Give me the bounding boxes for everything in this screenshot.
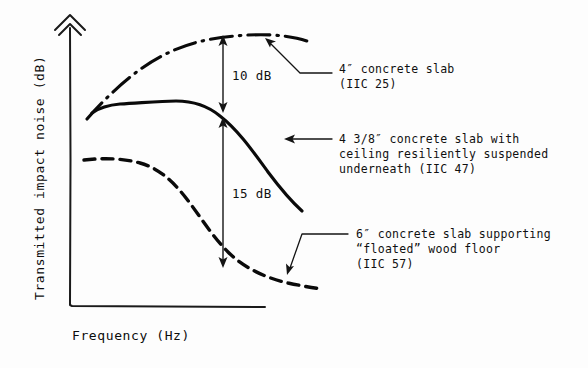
chart-figure: Transmitted impact noise (dB) Frequency …	[0, 0, 588, 368]
callout-slab438-line2: ceiling resiliently suspended	[339, 147, 548, 161]
dimension-15db-label: 15 dB	[232, 186, 272, 201]
callout-slab438: 4 3/8″ concrete slab with ceiling resili…	[284, 132, 548, 176]
x-axis-title: Frequency (Hz)	[72, 328, 190, 343]
y-axis-title: Transmitted impact noise (dB)	[32, 56, 47, 300]
callout-slab6-line2: “floated” wood floor	[356, 242, 500, 256]
callout-slab6-arrowhead	[286, 264, 294, 276]
callout-slab6: 6″ concrete slab supporting “floated” wo…	[286, 227, 551, 275]
series-line-curve-1	[87, 35, 312, 119]
dimension-10db: 10 dB	[219, 35, 272, 113]
callout-slab4-leader	[271, 44, 332, 73]
callout-slab438-line1: 4 3/8″ concrete slab with	[339, 132, 520, 146]
callout-slab6-line3: (IIC 57)	[356, 257, 414, 271]
chart-canvas: Transmitted impact noise (dB) Frequency …	[0, 0, 588, 368]
callout-slab4-line1: 4″ concrete slab	[339, 62, 455, 76]
callout-slab6-leader	[290, 234, 348, 268]
callout-slab4: 4″ concrete slab (IIC 25)	[265, 38, 455, 91]
series-line-curve-3	[84, 159, 322, 289]
callout-slab4-line2: (IIC 25)	[339, 77, 397, 91]
callout-slab4-arrowhead	[265, 38, 276, 48]
dimension-10db-label: 10 dB	[232, 68, 272, 83]
callout-slab6-line1: 6″ concrete slab supporting	[356, 227, 551, 241]
callout-slab438-line3: underneath (IIC 47)	[339, 162, 476, 176]
